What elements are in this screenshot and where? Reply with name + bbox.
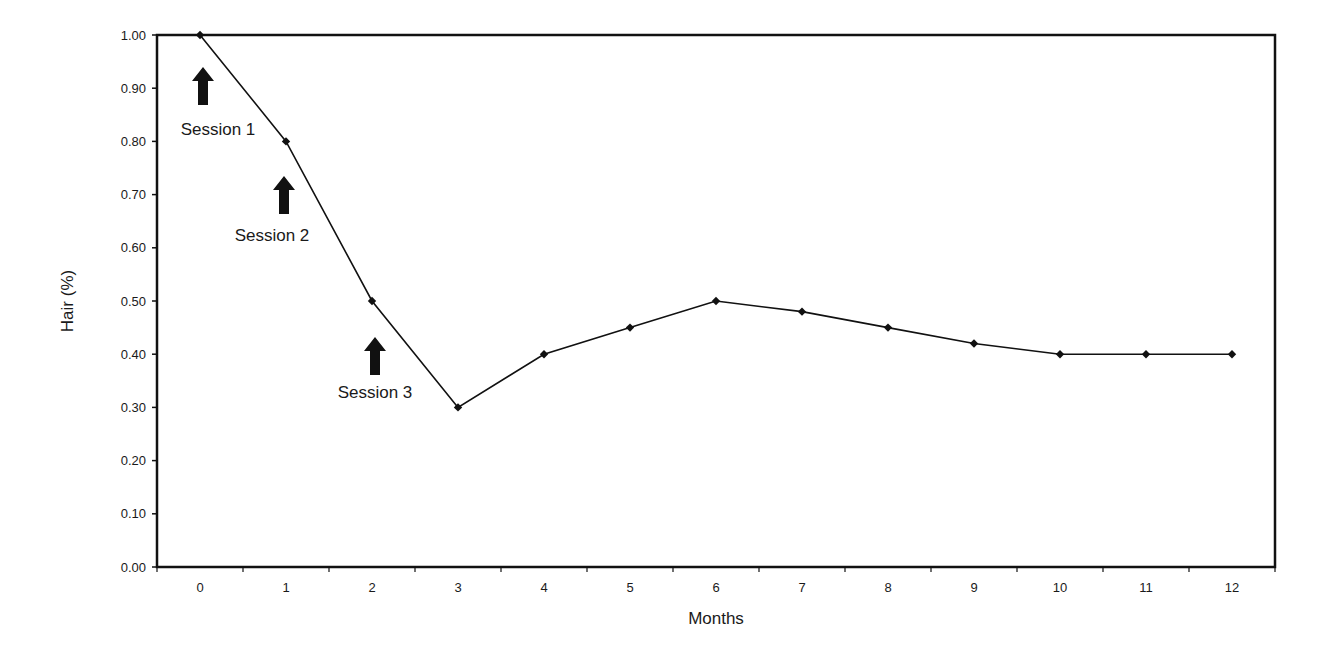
y-tick-label: 0.50 xyxy=(121,294,146,309)
x-tick-label: 1 xyxy=(282,580,289,595)
x-tick-label: 0 xyxy=(196,580,203,595)
y-tick-label: 0.40 xyxy=(121,347,146,362)
x-tick-label: 3 xyxy=(454,580,461,595)
session-label: Session 3 xyxy=(338,383,413,402)
x-tick-label: 4 xyxy=(540,580,547,595)
x-tick-label: 11 xyxy=(1139,580,1153,595)
line-chart: 0.000.100.200.300.400.500.600.700.800.90… xyxy=(0,0,1332,654)
x-tick-label: 8 xyxy=(884,580,891,595)
y-tick-label: 0.10 xyxy=(121,506,146,521)
x-tick-label: 10 xyxy=(1053,580,1067,595)
y-tick-label: 0.70 xyxy=(121,187,146,202)
x-tick-label: 5 xyxy=(626,580,633,595)
session-label: Session 1 xyxy=(181,120,256,139)
y-tick-label: 0.20 xyxy=(121,453,146,468)
x-axis-title: Months xyxy=(688,609,744,628)
y-tick-label: 0.90 xyxy=(121,81,146,96)
y-tick-label: 0.80 xyxy=(121,134,146,149)
x-tick-label: 9 xyxy=(970,580,977,595)
y-tick-label: 1.00 xyxy=(121,28,146,43)
y-tick-label: 0.00 xyxy=(121,560,146,575)
x-axis: 0123456789101112 xyxy=(157,567,1275,595)
y-tick-label: 0.60 xyxy=(121,240,146,255)
x-tick-label: 2 xyxy=(368,580,375,595)
x-tick-label: 7 xyxy=(798,580,805,595)
x-tick-label: 12 xyxy=(1225,580,1239,595)
y-axis: 0.000.100.200.300.400.500.600.700.800.90… xyxy=(121,28,157,575)
y-axis-title: Hair (%) xyxy=(58,270,77,332)
y-tick-label: 0.30 xyxy=(121,400,146,415)
x-tick-label: 6 xyxy=(712,580,719,595)
session-label: Session 2 xyxy=(235,226,310,245)
